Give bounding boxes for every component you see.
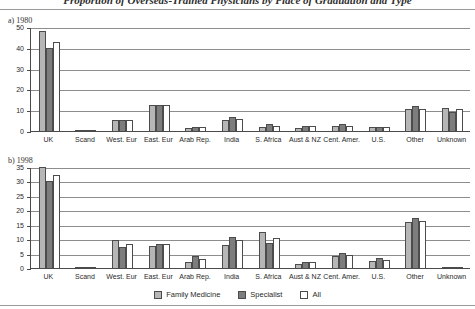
bar-group [178, 27, 215, 131]
bar [156, 105, 163, 131]
plot-area-1998 [30, 168, 470, 269]
bar [302, 126, 309, 131]
bar [332, 126, 339, 131]
bar [259, 127, 266, 131]
bar-group [251, 27, 288, 131]
bar [295, 264, 302, 268]
bar [163, 244, 170, 268]
bar [236, 240, 243, 268]
bar-group [104, 167, 141, 268]
bar [185, 128, 192, 131]
bar [266, 124, 273, 131]
bar [82, 267, 89, 269]
legend-label: Specialist [250, 290, 282, 299]
bar [119, 120, 126, 131]
bar [449, 112, 456, 131]
bar [53, 42, 60, 131]
bar-group [68, 167, 105, 268]
bar [442, 267, 449, 268]
bar-group [214, 27, 251, 131]
bar [369, 127, 376, 131]
y-axis-label: 30 [2, 66, 24, 73]
figure-title: Proportion of Overseas-Trained Physician… [0, 0, 475, 6]
bar [199, 127, 206, 131]
bar [259, 232, 266, 268]
bar-group [434, 167, 471, 268]
bar-group [288, 167, 325, 268]
bar [405, 109, 412, 131]
bar-group [288, 27, 325, 131]
bar-group [104, 27, 141, 131]
figure-page: Proportion of Overseas-Trained Physician… [0, 0, 475, 309]
bar [39, 167, 46, 268]
y-axis-label: 0 [2, 265, 24, 272]
bar [456, 267, 463, 268]
bar-group [434, 27, 471, 131]
y-axis-tick [27, 269, 31, 270]
bar [332, 256, 339, 268]
bar-group [68, 27, 105, 131]
bar [89, 130, 96, 132]
bar [119, 247, 126, 268]
bar [302, 262, 309, 268]
chart-panel-1980: a) 1980 01020304050UKScandWest. EurEast.… [0, 16, 475, 150]
legend-swatch-all [300, 291, 308, 299]
y-axis-label: 35 [2, 164, 24, 171]
bar-group [361, 27, 398, 131]
bar [222, 120, 229, 131]
bar [309, 126, 316, 131]
bar [442, 108, 449, 131]
bar [376, 127, 383, 131]
plot-area-1980 [30, 28, 470, 132]
bar [295, 128, 302, 131]
bar [383, 127, 390, 131]
bar [149, 246, 156, 269]
y-axis-label: 5 [2, 251, 24, 258]
bar [229, 117, 236, 131]
bar-group [31, 167, 68, 268]
y-axis-label: 15 [2, 222, 24, 229]
legend-item: All [300, 290, 320, 299]
bar [383, 260, 390, 268]
bar [419, 221, 426, 268]
y-axis-label: 40 [2, 45, 24, 52]
y-axis-label: 30 [2, 178, 24, 185]
bar [39, 31, 46, 131]
bar [346, 255, 353, 268]
legend-label: Family Medicine [166, 290, 220, 299]
y-axis-label: 25 [2, 193, 24, 200]
legend: Family MedicineSpecialistAll [0, 290, 475, 299]
bar [405, 222, 412, 268]
y-axis-tick [27, 132, 31, 133]
y-axis-label: 20 [2, 86, 24, 93]
bar-group [398, 27, 435, 131]
bar-group [251, 167, 288, 268]
bar [199, 259, 206, 268]
bar [309, 262, 316, 268]
bar [112, 240, 119, 268]
bar [222, 245, 229, 268]
x-axis-label: Unknown [425, 136, 475, 143]
bar-group [324, 167, 361, 268]
legend-swatch-fam [154, 291, 162, 299]
title-divider [0, 9, 475, 10]
bar-group [214, 167, 251, 268]
legend-item: Family Medicine [154, 290, 220, 299]
chart-panel-1998: b) 1998 05101520253035UKScandWest. EurEa… [0, 156, 475, 284]
bar [266, 243, 273, 268]
bar [346, 126, 353, 131]
bar [412, 106, 419, 131]
bar [236, 119, 243, 131]
legend-item: Specialist [238, 290, 282, 299]
bar [82, 130, 89, 132]
bar [376, 258, 383, 268]
bar-group [141, 167, 178, 268]
bar [89, 267, 96, 269]
y-axis-label: 20 [2, 207, 24, 214]
bar-group [361, 167, 398, 268]
bar [75, 267, 82, 269]
legend-swatch-spec [238, 291, 246, 299]
bar [412, 218, 419, 268]
bar [126, 120, 133, 131]
bottom-divider [0, 305, 475, 306]
